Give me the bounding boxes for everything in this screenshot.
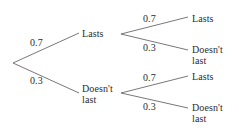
probability-tree-diagram: 0.7 0.3 Lasts Doesn't last 0.7 0.3 Lasts… xyxy=(0,0,239,131)
branch-root-to-doesnt-last xyxy=(13,63,79,93)
probability-label-stage2-upper-doesnt-last: 0.3 xyxy=(143,42,156,53)
node-label-stage2-doesnt-last-lasts: Lasts xyxy=(192,72,214,83)
branch-root-to-lasts xyxy=(13,33,79,63)
node-label-stage2-lasts-lasts: Lasts xyxy=(192,14,214,25)
node-label-stage2-doesnt-last-doesnt-last: Doesn't last xyxy=(192,103,223,124)
probability-label-stage2-upper-lasts: 0.7 xyxy=(143,13,156,24)
node-label-stage1-lasts: Lasts xyxy=(82,29,104,40)
probability-label-stage2-lower-lasts: 0.7 xyxy=(143,72,156,83)
probability-label-stage2-lower-doesnt-last: 0.3 xyxy=(143,101,156,112)
node-label-stage1-doesnt-last: Doesn't last xyxy=(82,84,113,105)
probability-label-stage1-upper: 0.7 xyxy=(30,37,43,48)
node-label-stage2-lasts-doesnt-last: Doesn't last xyxy=(192,45,223,66)
probability-label-stage1-lower: 0.3 xyxy=(30,75,43,86)
